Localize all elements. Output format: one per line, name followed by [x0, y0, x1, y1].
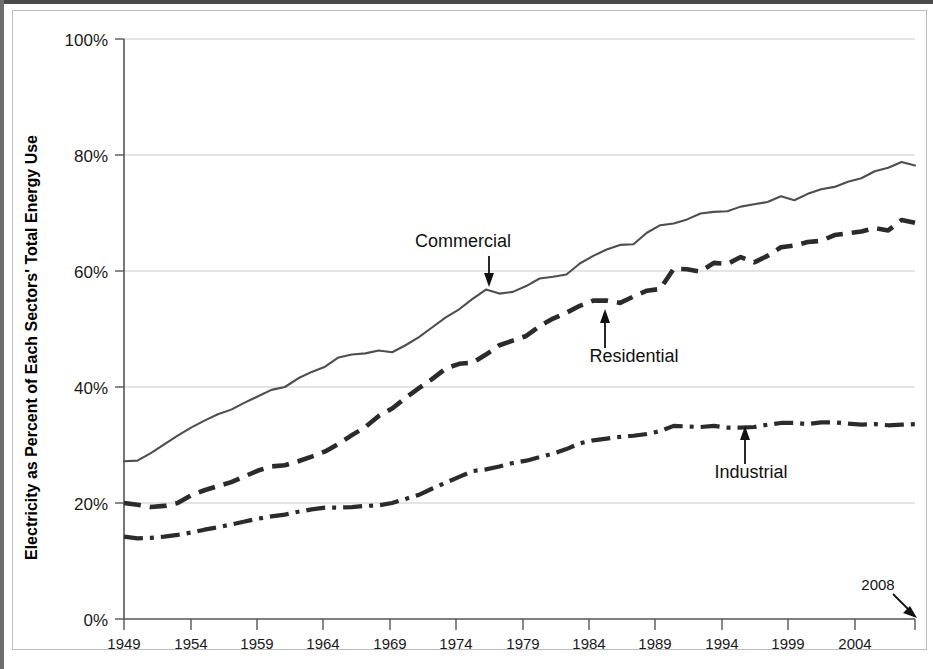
y-tickmarks: [115, 39, 124, 619]
x-tick-label-1984: 1984: [572, 635, 605, 652]
x-tick-label-1979: 1979: [506, 635, 539, 652]
y-tick-label-80: 80%: [74, 147, 108, 166]
series-line-residential: [124, 220, 915, 507]
x-tick-label-1999: 1999: [771, 635, 804, 652]
y-axis-title: Electricity as Percent of Each Sectors' …: [23, 135, 40, 560]
y-tick-labels: 100% 80% 60% 40% 20% 0%: [65, 31, 108, 630]
y-tick-label-20: 20%: [74, 495, 108, 514]
residential-label: Residential: [589, 346, 678, 366]
residential-arrow-icon: [600, 309, 610, 323]
annotation-commercial: Commercial: [415, 231, 511, 287]
x-tick-label-1974: 1974: [439, 635, 472, 652]
end-year-label: 2008: [861, 576, 894, 593]
x-tick-label-1989: 1989: [638, 635, 671, 652]
line-chart-svg: Electricity as Percent of Each Sectors' …: [0, 0, 933, 669]
x-tick-label-1994: 1994: [705, 635, 738, 652]
x-tick-label-1969: 1969: [373, 635, 406, 652]
y-tick-label-0: 0%: [83, 611, 108, 630]
chart-figure: Electricity as Percent of Each Sectors' …: [0, 0, 933, 669]
y-tick-label-40: 40%: [74, 379, 108, 398]
x-tick-label-1949: 1949: [107, 635, 140, 652]
gridlines: [124, 39, 915, 503]
series-line-commercial: [124, 162, 915, 461]
series-line-industrial: [124, 422, 915, 538]
x-tick-label-1964: 1964: [306, 635, 339, 652]
x-tick-labels: 1949 1954 1959 1964 1969 1974 1979 1984 …: [107, 635, 871, 652]
x-tick-label-1959: 1959: [240, 635, 273, 652]
annotation-industrial: Industrial: [714, 426, 787, 482]
y-tick-label-100: 100%: [65, 31, 108, 50]
x-tickmarks: [124, 619, 915, 630]
x-tick-label-1954: 1954: [174, 635, 207, 652]
commercial-arrow-icon: [484, 273, 494, 287]
x-tick-label-2004: 2004: [838, 635, 871, 652]
commercial-label: Commercial: [415, 231, 511, 251]
annotation-residential: Residential: [589, 309, 678, 366]
industrial-label: Industrial: [714, 462, 787, 482]
end-year-arrow-icon: [903, 606, 917, 618]
y-tick-label-60: 60%: [74, 263, 108, 282]
annotation-end-year: 2008: [861, 576, 917, 618]
